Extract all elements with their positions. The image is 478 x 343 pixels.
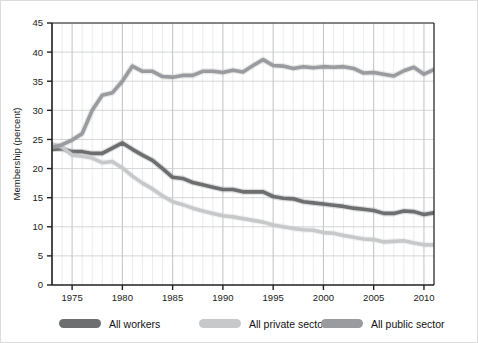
x-tick-label: 2000 xyxy=(313,292,334,303)
x-tick-label: 1985 xyxy=(162,292,183,303)
y-tick-label: 40 xyxy=(32,47,43,58)
legend-label-all-private-sector: All private sector xyxy=(249,318,327,330)
chart-legend: All workersAll private sectorAll public … xyxy=(59,318,445,330)
legend-label-all-workers: All workers xyxy=(109,318,160,330)
y-tick-label: 25 xyxy=(32,134,43,145)
y-tick-label: 15 xyxy=(32,192,43,203)
x-tick-label: 1980 xyxy=(112,292,133,303)
x-tick-label: 2005 xyxy=(363,292,384,303)
x-axis-ticks: 19751980198519901995200020052010 xyxy=(62,285,435,303)
legend-swatch-all-public-sector xyxy=(321,319,363,328)
y-axis-ticks: 051015202530354045 xyxy=(32,17,52,290)
y-tick-label: 20 xyxy=(32,163,43,174)
y-tick-label: 45 xyxy=(32,17,43,28)
legend-label-all-public-sector: All public sector xyxy=(371,318,445,330)
y-tick-label: 35 xyxy=(32,76,43,87)
x-tick-label: 2010 xyxy=(413,292,434,303)
x-tick-label: 1995 xyxy=(263,292,284,303)
chart-figure: 051015202530354045 197519801985199019952… xyxy=(0,0,478,343)
y-axis-title: Membership (percent) xyxy=(11,108,22,201)
y-tick-label: 5 xyxy=(38,250,43,261)
line-chart: 051015202530354045 197519801985199019952… xyxy=(1,1,478,343)
legend-swatch-all-workers xyxy=(59,319,101,328)
legend-swatch-all-private-sector xyxy=(199,319,241,328)
x-tick-label: 1975 xyxy=(62,292,83,303)
y-tick-label: 10 xyxy=(32,221,43,232)
x-tick-label: 1990 xyxy=(212,292,233,303)
y-tick-label: 30 xyxy=(32,105,43,116)
y-tick-label: 0 xyxy=(38,279,43,290)
